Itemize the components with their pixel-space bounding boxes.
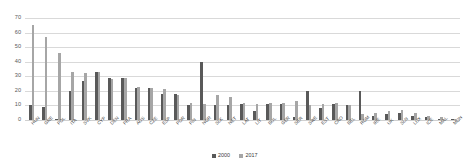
x-axis-label-cell: LIT	[249, 121, 262, 153]
bar-group-lux	[407, 18, 420, 120]
x-axis-label-cell: HUN	[25, 121, 38, 153]
bar-por-2017	[177, 95, 180, 120]
x-axis-label-cell: POR	[170, 121, 183, 153]
x-axis-label-cell: ICE	[421, 121, 434, 153]
bar-group-ice	[421, 18, 434, 120]
bar-group-lat	[236, 18, 249, 120]
bar-group-aus	[131, 18, 144, 120]
y-axis-tick-60: 60	[15, 30, 21, 36]
bar-group-ger	[276, 18, 289, 120]
bar-group-swe	[302, 18, 315, 120]
bar-group-svk	[78, 18, 91, 120]
bar-group-ser	[289, 18, 302, 120]
x-axis-label-cell: FRA	[117, 121, 130, 153]
legend-item-2000[interactable]: 2000	[212, 153, 231, 158]
x-axis-label-cell: ROM	[355, 121, 368, 153]
legend-item-2017[interactable]: 2017	[239, 153, 258, 158]
x-axis-label-cell: POL	[51, 121, 64, 153]
bar-group-hun	[25, 18, 38, 120]
bar-cyp-2017	[98, 72, 101, 120]
legend-label-2017: 2017	[246, 153, 258, 158]
x-axis-label-cell: MAL	[434, 121, 447, 153]
x-axis-label-cell: DEN	[104, 121, 117, 153]
legend-label-2000: 2000	[218, 153, 230, 158]
bar-group-cze	[144, 18, 157, 120]
x-axis-label-cell: GER	[276, 121, 289, 153]
bar-group-slk	[210, 18, 223, 120]
x-axis-label-cell: ESP	[157, 121, 170, 153]
y-axis-tick-0: 0	[18, 117, 21, 123]
bar-group-sln	[394, 18, 407, 120]
y-axis: 010203040506070	[0, 0, 25, 130]
bar-gre-2017	[45, 37, 48, 120]
bar-group-rom	[355, 18, 368, 120]
legend-swatch-2017	[239, 154, 243, 158]
bar-group-mon	[447, 18, 460, 120]
x-axis-label-cell: CZE	[144, 121, 157, 153]
y-axis-tick-50: 50	[15, 44, 21, 50]
bar-group-pol	[51, 18, 64, 120]
x-axis-label-cell: MON	[447, 121, 460, 153]
x-axis-label-cell: GRE	[38, 121, 51, 153]
bar-fra-2017	[124, 78, 127, 120]
bar-esp-2017	[163, 89, 166, 120]
y-axis-tick-30: 30	[15, 73, 21, 79]
bar-group-mal	[434, 18, 447, 120]
x-axis-label-cell: SVK	[78, 121, 91, 153]
bar-group-fra	[117, 18, 130, 120]
bar-hun-2017	[32, 25, 35, 120]
bar-group-est	[315, 18, 328, 120]
bar-aus-2017	[137, 87, 140, 121]
bar-group-por	[170, 18, 183, 120]
x-axis-label-cell: FIN	[183, 121, 196, 153]
bar-den-2017	[111, 79, 114, 120]
bar-group-gre	[38, 18, 51, 120]
x-axis-label-cell: SLK	[210, 121, 223, 153]
x-axis-label-cell: SER	[289, 121, 302, 153]
x-axis-label-cell: CRO	[328, 121, 341, 153]
bar-group-den	[104, 18, 117, 120]
x-axis-label-cell: SWE	[302, 121, 315, 153]
chart-legend: 20002017	[0, 153, 469, 158]
x-axis-label-cell: EST	[315, 121, 328, 153]
bar-group-uk	[381, 18, 394, 120]
bar-ita-2017	[71, 72, 74, 120]
bar-group-ita	[65, 18, 78, 120]
bar-group-cro	[328, 18, 341, 120]
bar-group-esp	[157, 18, 170, 120]
x-axis-label-cell: LUX	[407, 121, 420, 153]
legend-swatch-2000	[212, 154, 216, 158]
x-axis-label-cell: SLN	[394, 121, 407, 153]
y-axis-tick-70: 70	[15, 15, 21, 21]
y-axis-tick-20: 20	[15, 88, 21, 94]
bar-group-nor	[196, 18, 209, 120]
bar-group-lit	[249, 18, 262, 120]
x-axis-label-cell: IRE	[368, 121, 381, 153]
y-axis-tick-40: 40	[15, 59, 21, 65]
bar-group-net	[223, 18, 236, 120]
bar-chart: 010203040506070 HUNGREPOLITASVKCYPDENFRA…	[0, 0, 469, 167]
x-axis-label-cell: AUS	[131, 121, 144, 153]
x-axis-label-cell: BUL	[262, 121, 275, 153]
x-axis-label-cell: NOR	[196, 121, 209, 153]
bar-group-bel	[342, 18, 355, 120]
bar-group-bul	[262, 18, 275, 120]
x-axis-labels: HUNGREPOLITASVKCYPDENFRAAUSCZEESPPORFINN…	[25, 121, 460, 153]
bar-cze-2017	[150, 88, 153, 120]
x-axis-label-cell: LAT	[236, 121, 249, 153]
bar-pol-2017	[58, 53, 61, 120]
x-axis-label-cell: CYP	[91, 121, 104, 153]
x-axis-label-uk: UK	[387, 118, 395, 126]
x-axis-label-cell: UK	[381, 121, 394, 153]
x-axis-label-cell: BEL	[342, 121, 355, 153]
bar-group-ire	[368, 18, 381, 120]
bar-group-fin	[183, 18, 196, 120]
bar-group-cyp	[91, 18, 104, 120]
x-axis-label-cell: NET	[223, 121, 236, 153]
bars-container	[25, 18, 460, 120]
x-axis-label-cell: ITA	[65, 121, 78, 153]
bar-svk-2017	[84, 73, 87, 120]
y-axis-tick-10: 10	[15, 103, 21, 109]
